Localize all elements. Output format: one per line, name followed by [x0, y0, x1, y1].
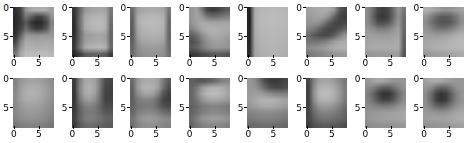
image-panel[interactable]: 0 5 0 5: [352, 0, 411, 71]
y-axis-labels: 0 5: [410, 77, 420, 127]
y-tick-label-5: 5: [3, 33, 9, 42]
y-tick-label-5: 5: [238, 33, 244, 42]
y-tick-label-0: 0: [62, 4, 68, 13]
x-tick-label-0: 0: [245, 59, 251, 68]
panel-row-top: 0 5 0 5 0 5 0: [0, 0, 469, 71]
heatmap-image: [365, 78, 406, 128]
image-panel[interactable]: 0 5 0 5: [117, 0, 176, 71]
y-tick-label-5: 5: [296, 104, 302, 113]
y-tick-label-0: 0: [62, 75, 68, 84]
x-axis-labels: 0 5: [365, 58, 406, 70]
y-axis-labels: 0 5: [410, 6, 420, 56]
y-tick-label-5: 5: [3, 104, 9, 113]
x-tick-label-5: 5: [36, 130, 42, 139]
x-axis-labels: 0 5: [13, 129, 54, 141]
image-panel[interactable]: 0 5 0 5: [59, 0, 118, 71]
y-axis-labels: 0 5: [59, 77, 69, 127]
x-axis-labels: 0 5: [130, 58, 171, 70]
image-panel[interactable]: 0 5 0 5: [176, 0, 235, 71]
x-axis-labels: 0 5: [72, 58, 113, 70]
x-axis-labels: 0 5: [72, 129, 113, 141]
x-tick-label-5: 5: [95, 59, 101, 68]
y-tick-label-0: 0: [238, 75, 244, 84]
y-tick-label-0: 0: [120, 75, 126, 84]
image-panel[interactable]: 0 5 0 5: [0, 71, 59, 142]
heatmap-image: [306, 7, 347, 57]
image-panel[interactable]: 0 5 0 5: [410, 0, 469, 71]
image-panel[interactable]: 0 5 0 5: [234, 0, 293, 71]
heatmap-image: [72, 78, 113, 128]
heatmap-image: [247, 7, 288, 57]
x-axis-labels: 0 5: [306, 58, 347, 70]
x-tick-label-5: 5: [95, 130, 101, 139]
y-tick-label-5: 5: [238, 104, 244, 113]
x-axis-labels: 0 5: [189, 58, 230, 70]
x-tick-label-0: 0: [128, 130, 134, 139]
heatmap-image: [306, 78, 347, 128]
y-tick-label-5: 5: [413, 104, 419, 113]
y-axis-labels: 0 5: [59, 6, 69, 56]
y-tick-label-5: 5: [296, 33, 302, 42]
y-tick-label-5: 5: [355, 33, 361, 42]
y-tick-label-0: 0: [413, 4, 419, 13]
y-tick-label-0: 0: [120, 4, 126, 13]
image-panel[interactable]: 0 5 0 5: [293, 71, 352, 142]
heatmap-image: [189, 78, 230, 128]
y-axis-labels: 0 5: [352, 77, 362, 127]
x-tick-label-0: 0: [304, 59, 310, 68]
image-panel[interactable]: 0 5 0 5: [117, 71, 176, 142]
x-axis-labels: 0 5: [365, 129, 406, 141]
x-tick-label-5: 5: [212, 130, 218, 139]
image-panel[interactable]: 0 5 0 5: [410, 71, 469, 142]
y-axis-labels: 0 5: [293, 6, 303, 56]
image-panel[interactable]: 0 5 0 5: [293, 0, 352, 71]
x-tick-label-0: 0: [363, 130, 369, 139]
x-tick-label-5: 5: [270, 59, 276, 68]
image-panel[interactable]: 0 5 0 5: [0, 0, 59, 71]
y-tick-label-0: 0: [179, 75, 185, 84]
x-tick-label-5: 5: [388, 130, 394, 139]
x-axis-labels: 0 5: [130, 129, 171, 141]
x-tick-label-0: 0: [187, 59, 193, 68]
image-panel[interactable]: 0 5 0 5: [59, 71, 118, 142]
x-tick-label-0: 0: [363, 59, 369, 68]
x-tick-label-0: 0: [304, 130, 310, 139]
y-tick-label-5: 5: [413, 33, 419, 42]
y-tick-label-5: 5: [62, 104, 68, 113]
heatmap-image: [13, 78, 54, 128]
y-tick-label-0: 0: [179, 4, 185, 13]
x-tick-label-5: 5: [270, 130, 276, 139]
y-tick-label-0: 0: [355, 75, 361, 84]
y-tick-label-5: 5: [62, 33, 68, 42]
x-tick-label-0: 0: [11, 130, 17, 139]
image-panel[interactable]: 0 5 0 5: [176, 71, 235, 142]
y-axis-labels: 0 5: [117, 6, 127, 56]
x-tick-label-0: 0: [70, 59, 76, 68]
heatmap-image: [423, 7, 464, 57]
x-tick-label-5: 5: [36, 59, 42, 68]
y-axis-labels: 0 5: [0, 77, 10, 127]
y-tick-label-0: 0: [3, 75, 9, 84]
heatmap-image: [130, 78, 171, 128]
image-panel[interactable]: 0 5 0 5: [234, 71, 293, 142]
heatmap-image: [13, 7, 54, 57]
y-tick-label-0: 0: [413, 75, 419, 84]
y-tick-label-5: 5: [179, 104, 185, 113]
x-tick-label-5: 5: [212, 59, 218, 68]
x-tick-label-0: 0: [70, 130, 76, 139]
y-tick-label-0: 0: [296, 4, 302, 13]
x-axis-labels: 0 5: [306, 129, 347, 141]
heatmap-image: [130, 7, 171, 57]
x-tick-label-5: 5: [446, 59, 452, 68]
y-tick-label-5: 5: [120, 104, 126, 113]
heatmap-image: [423, 78, 464, 128]
image-panel[interactable]: 0 5 0 5: [352, 71, 411, 142]
x-axis-labels: 0 5: [189, 129, 230, 141]
x-tick-label-0: 0: [421, 130, 427, 139]
x-tick-label-0: 0: [421, 59, 427, 68]
x-tick-label-5: 5: [388, 59, 394, 68]
x-tick-label-0: 0: [11, 59, 17, 68]
y-axis-labels: 0 5: [117, 77, 127, 127]
panel-row-bottom: 0 5 0 5 0 5 0: [0, 71, 469, 142]
y-axis-labels: 0 5: [0, 6, 10, 56]
